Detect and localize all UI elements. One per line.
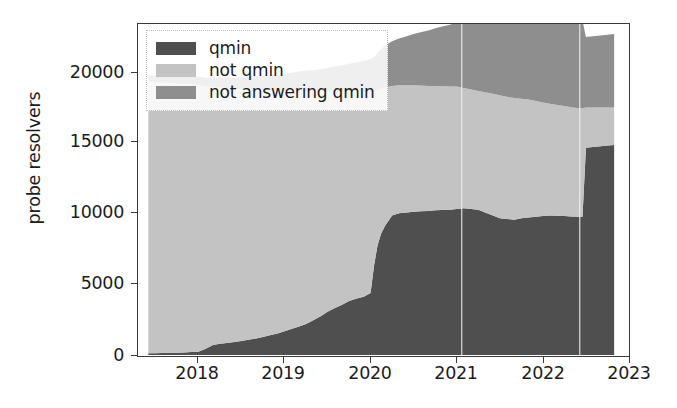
y-tick-label-0: 0 (32, 345, 124, 365)
y-tick-label-15000: 15000 (32, 131, 124, 151)
legend-label-not-qmin: not qmin (209, 60, 284, 80)
x-tick-label-2023: 2023 (584, 363, 674, 383)
x-tick-label-2018: 2018 (152, 363, 242, 383)
legend-swatch-not-qmin (156, 64, 196, 77)
legend-label-not-answering-qmin: not answering qmin (209, 82, 375, 102)
x-tick-label-2019: 2019 (238, 363, 328, 383)
legend-swatch-not-answering-qmin (156, 86, 196, 99)
data-gap-marker (461, 24, 462, 355)
legend-item-not-qmin: not qmin (156, 59, 375, 81)
legend-label-qmin: qmin (209, 38, 251, 58)
legend-item-not-answering-qmin: not answering qmin (156, 81, 375, 103)
y-tick-label-20000: 20000 (32, 62, 124, 82)
x-tick-label-2020: 2020 (325, 363, 415, 383)
chart-legend: qmin not qmin not answering qmin (146, 30, 388, 111)
data-gap-marker (579, 24, 580, 355)
legend-swatch-qmin (156, 42, 196, 55)
chart-figure: probe resolvers 20000 15000 10000 5000 0… (0, 0, 677, 408)
y-tick-label-10000: 10000 (32, 202, 124, 222)
x-tick-label-2021: 2021 (411, 363, 501, 383)
legend-item-qmin: qmin (156, 37, 375, 59)
post-data-blank (614, 24, 629, 355)
x-tick-label-2022: 2022 (498, 363, 588, 383)
y-tick-label-5000: 5000 (32, 273, 124, 293)
